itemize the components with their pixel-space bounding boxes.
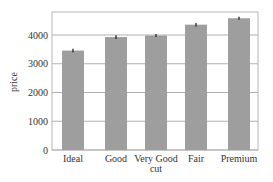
- bar: [228, 18, 250, 150]
- y-axis-label: price: [8, 71, 19, 92]
- x-tick-label: Premium: [221, 153, 258, 164]
- bar: [105, 37, 127, 150]
- y-tick-label: 2000: [28, 87, 48, 98]
- bars: [62, 17, 250, 150]
- x-tick-label: Ideal: [63, 153, 83, 164]
- y-axis-ticks: 01000200030004000: [28, 30, 48, 156]
- x-axis-label: cut: [150, 163, 162, 174]
- bar: [185, 25, 207, 150]
- x-tick-label: Fair: [188, 153, 205, 164]
- y-tick-label: 3000: [28, 58, 48, 69]
- bar: [145, 36, 167, 150]
- y-tick-label: 1000: [28, 116, 48, 127]
- y-tick-label: 0: [43, 145, 48, 156]
- x-tick-label: Good: [105, 153, 127, 164]
- bar: [62, 51, 84, 150]
- y-tick-label: 4000: [28, 30, 48, 41]
- bar-chart: 01000200030004000 IdealGoodVery GoodFair…: [0, 0, 273, 182]
